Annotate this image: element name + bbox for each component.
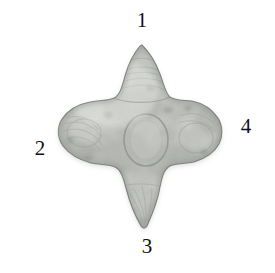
view-label-4: 4 [236, 116, 256, 137]
surface-highlight [66, 58, 158, 126]
specimen-body [40, 35, 240, 240]
specimen-surface [40, 35, 240, 240]
specimen-figure: 1 2 3 4 [0, 0, 275, 273]
view-label-2: 2 [30, 138, 50, 159]
view-label-1: 1 [132, 10, 152, 31]
view-label-3: 3 [137, 236, 157, 257]
